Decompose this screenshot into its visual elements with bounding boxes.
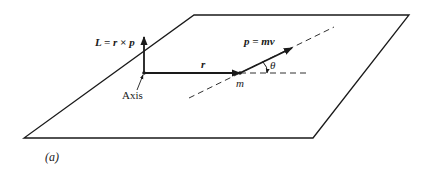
mass-point [238, 71, 242, 75]
label-axis: Axis [122, 90, 143, 101]
angular-momentum-diagram [0, 0, 427, 182]
label-momentum: p = mv [244, 36, 275, 47]
plane [24, 15, 409, 138]
label-m: m [236, 78, 244, 89]
theta-arc [263, 62, 267, 73]
label-panel: (a) [45, 151, 59, 163]
label-angular-momentum: L = r × p [95, 37, 135, 48]
axis-pointer [137, 75, 143, 90]
p-vector [240, 48, 292, 73]
origin-point [142, 71, 146, 75]
label-r: r [201, 59, 205, 70]
label-theta: θ [270, 60, 275, 71]
